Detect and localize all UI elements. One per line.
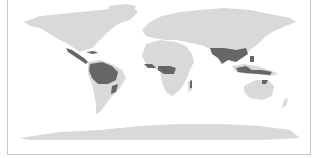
philippines-highlight (250, 56, 254, 62)
south-asia-highlight (210, 48, 248, 64)
caribbean-highlight (86, 51, 98, 54)
world-map (0, 0, 319, 158)
madagascar-highlight (190, 80, 192, 88)
antarctica (20, 124, 300, 140)
new-zealand (282, 98, 288, 108)
australia (244, 80, 274, 100)
